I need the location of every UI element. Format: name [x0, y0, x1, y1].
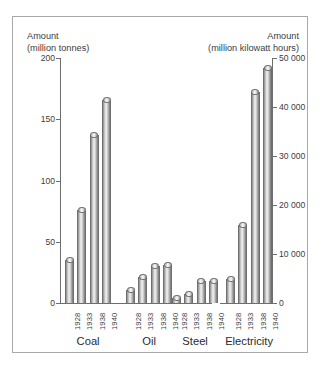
- x-tick-label-1928: 1928: [180, 313, 189, 330]
- bar-steel-1928: [172, 298, 181, 303]
- bar-oil-1933: [138, 277, 147, 303]
- chart-frame: Amount (million tonnes) Amount (million …: [12, 16, 308, 353]
- bar-top-ellipse: [78, 207, 86, 213]
- right-baseline: [220, 303, 273, 304]
- bar-steel-1933: [184, 294, 193, 303]
- right-axis-tick: [273, 107, 277, 108]
- right-axis-tick: [273, 58, 277, 59]
- x-tick-label-1928: 1928: [73, 313, 82, 330]
- left-axis-tick: [56, 119, 60, 120]
- bar-top-ellipse: [227, 276, 235, 282]
- bar-top-ellipse: [264, 65, 272, 71]
- bar-oil-1940: [163, 265, 172, 303]
- bar-coal-1938: [90, 135, 99, 303]
- x-tick-label-1933: 1933: [246, 313, 255, 330]
- bar-coal-1933: [77, 210, 86, 303]
- left-axis-tick-label: 200: [41, 53, 55, 63]
- right-axis-tick-label: 10 000: [279, 249, 305, 259]
- bar-top-ellipse: [164, 262, 172, 268]
- left-axis-title-line2: (million tonnes): [27, 43, 89, 55]
- bar-electricity-1938: [251, 92, 260, 303]
- x-tick-label-1938: 1938: [159, 313, 168, 330]
- group-label-oil: Oil: [142, 335, 156, 347]
- chart-plot-area: Amount (million tonnes) Amount (million …: [13, 17, 307, 352]
- bar-coal-1928: [65, 260, 74, 303]
- bar-top-ellipse: [185, 291, 193, 297]
- right-axis-tick: [273, 254, 277, 255]
- x-tick-label-1928: 1928: [234, 313, 243, 330]
- bar-top-ellipse: [66, 257, 74, 263]
- left-axis-tick: [56, 242, 60, 243]
- bar-top-ellipse: [197, 278, 205, 284]
- bar-steel-1938: [197, 281, 206, 303]
- group-label-electricity: Electricity: [225, 335, 273, 347]
- right-axis-tick-label: 0: [279, 298, 284, 308]
- right-axis-tick-label: 30 000: [279, 151, 305, 161]
- right-axis-title-line1: Amount: [208, 31, 299, 43]
- x-tick-label-1940: 1940: [271, 313, 280, 330]
- left-axis-tick-label: 50: [45, 237, 55, 247]
- bar-top-ellipse: [127, 287, 135, 293]
- left-axis-line: [60, 58, 61, 303]
- x-tick-label-1938: 1938: [259, 313, 268, 330]
- bar-top-ellipse: [90, 132, 98, 138]
- left-axis-title: Amount (million tonnes): [27, 31, 89, 54]
- bar-top-ellipse: [239, 222, 247, 228]
- x-tick-label-1938: 1938: [205, 313, 214, 330]
- bar-top-ellipse: [173, 295, 181, 301]
- x-tick-label-1928: 1928: [134, 313, 143, 330]
- x-tick-label-1940: 1940: [171, 313, 180, 330]
- right-axis-title: Amount (million kilowatt hours): [208, 31, 299, 54]
- bar-top-ellipse: [210, 278, 218, 284]
- bar-coal-1940: [102, 100, 111, 303]
- bar-top-ellipse: [151, 263, 159, 269]
- right-axis-tick-label: 50 000: [279, 53, 305, 63]
- right-axis-tick: [273, 156, 277, 157]
- bar-electricity-1940: [263, 68, 272, 303]
- bar-steel-1940: [209, 281, 218, 303]
- left-baseline: [60, 303, 212, 304]
- bar-oil-1928: [126, 290, 135, 303]
- bar-top-ellipse: [103, 97, 111, 103]
- left-axis-tick-label: 0: [50, 298, 55, 308]
- x-tick-label-1938: 1938: [98, 313, 107, 330]
- right-axis-tick: [273, 303, 277, 304]
- left-axis-tick-label: 100: [41, 176, 55, 186]
- bar-top-ellipse: [139, 274, 147, 280]
- x-tick-label-1940: 1940: [217, 313, 226, 330]
- left-axis-tick-label: 150: [41, 114, 55, 124]
- x-tick-label-1933: 1933: [146, 313, 155, 330]
- left-axis-title-line1: Amount: [27, 31, 89, 43]
- group-label-coal: Coal: [77, 335, 100, 347]
- x-tick-label-1940: 1940: [110, 313, 119, 330]
- x-tick-label-1933: 1933: [85, 313, 94, 330]
- bar-oil-1938: [151, 266, 160, 303]
- x-tick-label-1933: 1933: [192, 313, 201, 330]
- left-axis-tick: [56, 58, 60, 59]
- bar-electricity-1928: [226, 279, 235, 304]
- right-axis-tick-label: 40 000: [279, 102, 305, 112]
- bar-electricity-1933: [238, 225, 247, 303]
- right-axis-tick: [273, 205, 277, 206]
- right-axis-tick-label: 20 000: [279, 200, 305, 210]
- left-axis-tick: [56, 303, 60, 304]
- bar-top-ellipse: [251, 89, 259, 95]
- group-label-steel: Steel: [182, 335, 208, 347]
- left-axis-tick: [56, 181, 60, 182]
